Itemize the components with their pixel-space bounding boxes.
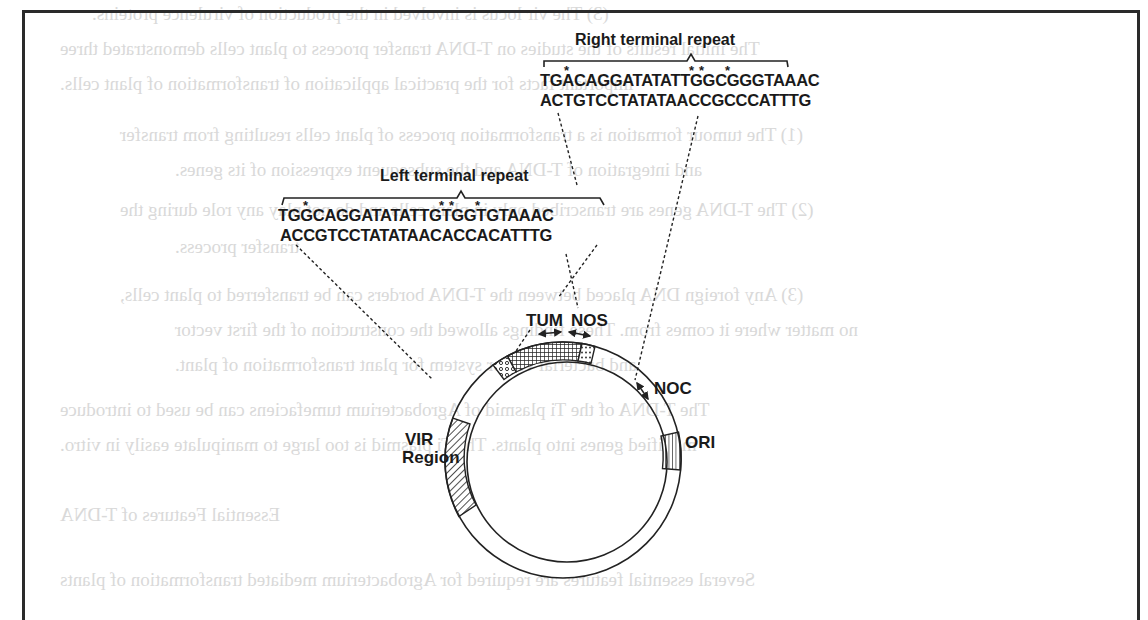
plasmid-outer-circle: [445, 342, 681, 578]
left-repeat-title: Left terminal repeat: [380, 167, 529, 184]
plasmid-ring: [445, 342, 681, 578]
vir-label-line2: Region: [402, 448, 460, 467]
right-terminal-repeat: Right terminal repeat * * * * TGACAGGATA…: [540, 31, 820, 109]
nos-direction-arrow: [569, 332, 590, 336]
plasmid-inner-circle: [467, 362, 667, 562]
leader-line: [635, 116, 698, 380]
right-repeat-brace: [544, 54, 788, 67]
ori-label: ORI: [685, 433, 715, 452]
right-repeat-bottom-strand: ACTGTCCTATATAACCGCCCATTTG: [540, 91, 811, 109]
left-repeat-bottom-strand: ACCGTCCTATATAACACCACATTTG: [280, 226, 552, 244]
noc-label: NOC: [654, 379, 692, 398]
leader-lines: [296, 113, 698, 380]
tum-label: TUM: [526, 311, 563, 330]
left-repeat-top-strand: TGGCAGGATATATTGTGGTGTAAAC: [278, 206, 554, 224]
right-repeat-title: Right terminal repeat: [575, 31, 736, 48]
leader-line: [296, 245, 433, 380]
nos-label: NOS: [571, 311, 608, 330]
right-repeat-top-strand: TGACAGGATATATTGGCGGGTAAAC: [540, 71, 820, 89]
tum-direction-arrow: [539, 332, 561, 334]
left-terminal-repeat: Left terminal repeat * * * * TGGCAGGATAT…: [278, 167, 604, 244]
tum-gene-segment: [507, 342, 582, 372]
leader-line: [558, 113, 577, 185]
leader-line: [566, 254, 578, 308]
vir-label-line1: VIR: [405, 430, 433, 449]
leader-line: [558, 245, 597, 298]
